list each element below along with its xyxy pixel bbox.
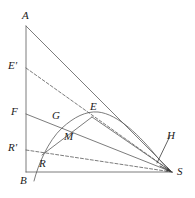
point-label-F: F [11, 106, 18, 117]
point-label-E: E [90, 101, 97, 112]
point-label-B: B [20, 175, 27, 186]
parabolic-arc [34, 112, 172, 181]
point-label-R-prime: R' [8, 142, 17, 153]
point-label-M: M [64, 131, 73, 142]
segment-F-S [26, 114, 172, 172]
point-label-S: S [177, 166, 183, 177]
segment-Rprime-S [26, 150, 172, 172]
segment-Eprime-S [26, 68, 172, 172]
diagram-canvas [0, 0, 195, 198]
point-label-G: G [52, 110, 60, 121]
geometry-diagram: A E' F G E M R' R B H S [0, 0, 195, 198]
segment-group [26, 26, 172, 181]
point-label-E-prime: E' [8, 60, 17, 71]
point-label-R: R [39, 158, 46, 169]
point-label-A: A [22, 10, 29, 21]
point-label-H: H [167, 130, 175, 141]
